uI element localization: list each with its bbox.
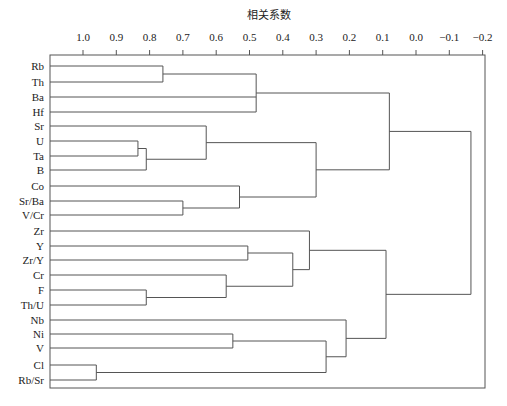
- leaf-label: Ba: [32, 91, 44, 103]
- leaf-label: Hf: [32, 106, 44, 118]
- leaf-label: Sr: [34, 120, 44, 132]
- leaf-label: Th/U: [21, 299, 44, 311]
- leaf-label: V: [36, 342, 44, 354]
- x-tick-label: 0.2: [343, 31, 357, 43]
- x-tick-label: −0.1: [439, 31, 459, 43]
- leaf-label: U: [36, 135, 44, 147]
- x-tick-label: 0.5: [243, 31, 257, 43]
- x-tick-label: 0.0: [409, 31, 423, 43]
- x-tick-label: 0.1: [376, 31, 390, 43]
- leaf-label: Sr/Ba: [19, 195, 44, 207]
- leaf-label: Cr: [33, 269, 44, 281]
- x-tick-label: 0.9: [109, 31, 123, 43]
- leaf-label: Cl: [34, 359, 44, 371]
- plot-frame: [50, 55, 485, 388]
- leaf-label: B: [37, 164, 44, 176]
- leaf-label: Y: [36, 240, 44, 252]
- leaf-label: Zr: [34, 225, 45, 237]
- leaf-labels: RbThBaHfSrUTaBCoSr/BaV/CrZrYZr/YCrFTh/UN…: [18, 60, 44, 386]
- leaf-label: Ni: [33, 328, 44, 340]
- x-tick-label: 1.0: [76, 31, 90, 43]
- x-tick-label: 0.6: [209, 31, 223, 43]
- x-tick-label: 0.7: [176, 31, 190, 43]
- leaf-label: Co: [31, 180, 44, 192]
- leaf-label: Zr/Y: [23, 254, 44, 266]
- x-tick-label: 0.8: [143, 31, 157, 43]
- leaf-label: Rb/Sr: [18, 374, 44, 386]
- leaf-label: Rb: [31, 60, 44, 72]
- x-tick-label: 0.4: [276, 31, 290, 43]
- leaf-label: Th: [32, 76, 45, 88]
- leaf-label: Nb: [31, 314, 45, 326]
- x-tick-label: 0.3: [309, 31, 323, 43]
- x-tick-label: −0.2: [473, 31, 493, 43]
- dendrogram-branches: [50, 66, 471, 380]
- leaf-label: Ta: [33, 150, 44, 162]
- leaf-label: V/Cr: [22, 209, 44, 221]
- dendrogram-chart: 1.00.90.80.70.60.50.40.30.20.10.0−0.1−0.…: [0, 0, 507, 406]
- plot-border: [50, 55, 485, 388]
- leaf-label: F: [38, 284, 44, 296]
- x-axis: 1.00.90.80.70.60.50.40.30.20.10.0−0.1−0.…: [76, 31, 492, 55]
